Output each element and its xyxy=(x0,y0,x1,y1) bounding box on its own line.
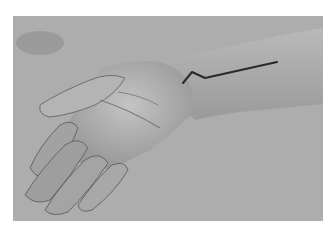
photograph xyxy=(13,16,323,221)
hand-illustration xyxy=(13,16,323,221)
stain xyxy=(16,31,64,55)
